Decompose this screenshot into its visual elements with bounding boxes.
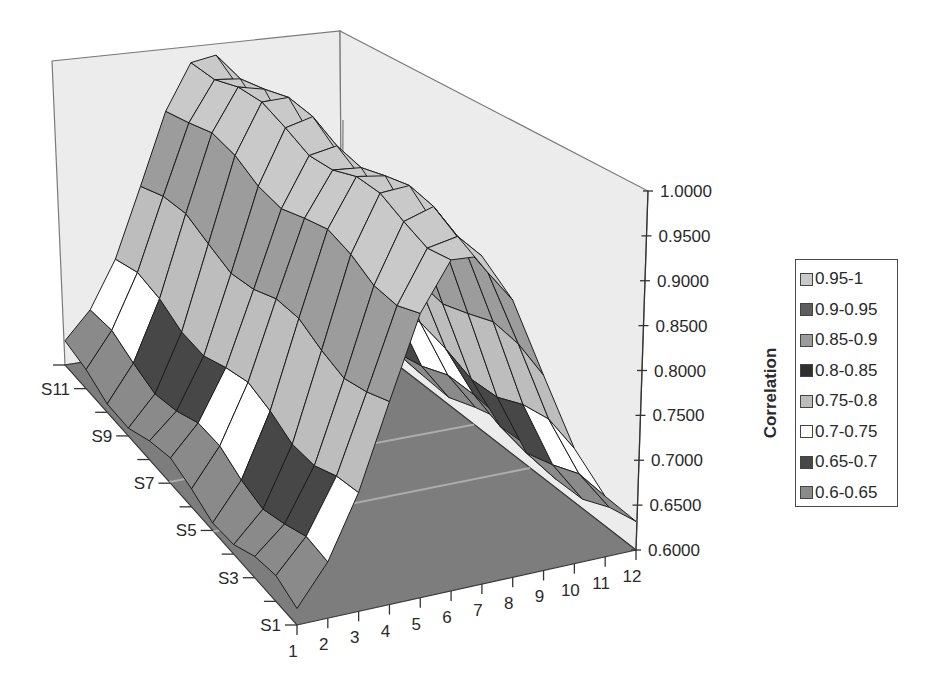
z-tick-label: 0.6000 <box>648 541 700 560</box>
z-axis-title: Correlation <box>761 348 780 439</box>
legend: 0.95-10.9-0.950.85-0.90.8-0.850.75-0.80.… <box>795 259 898 507</box>
z-tick-label: 1.0000 <box>660 182 712 201</box>
series-tick-label: S3 <box>218 569 239 588</box>
x-tick-label: 10 <box>561 581 580 600</box>
legend-swatch <box>800 273 813 286</box>
z-tick-label: 0.9000 <box>657 272 709 291</box>
legend-item: 0.6-0.65 <box>796 478 897 509</box>
x-tick-label: 1 <box>288 642 297 661</box>
series-tick-label: S1 <box>260 616 281 635</box>
legend-label: 0.95-1 <box>815 269 863 289</box>
legend-item: 0.95-1 <box>796 264 897 295</box>
x-tick-label: 11 <box>592 574 610 593</box>
x-tick-label: 5 <box>412 615 421 634</box>
legend-item: 0.8-0.85 <box>796 356 897 387</box>
legend-item: 0.7-0.75 <box>796 417 897 448</box>
legend-swatch <box>800 334 813 347</box>
legend-swatch <box>800 425 813 438</box>
legend-label: 0.7-0.75 <box>815 422 877 442</box>
legend-item: 0.65-0.7 <box>796 447 897 478</box>
legend-swatch <box>800 303 813 316</box>
x-tick-label: 9 <box>535 587 544 606</box>
legend-item: 0.85-0.9 <box>796 325 897 356</box>
legend-item: 0.9-0.95 <box>796 295 897 326</box>
legend-swatch <box>800 364 813 377</box>
x-tick-label: 3 <box>350 628 359 647</box>
x-tick-label: 7 <box>473 601 482 620</box>
x-tick-label: 2 <box>319 635 328 654</box>
z-tick-label: 0.7000 <box>651 451 703 470</box>
series-tick-label: S9 <box>91 427 112 446</box>
series-tick-label: S7 <box>134 474 155 493</box>
legend-label: 0.65-0.7 <box>815 452 877 472</box>
x-tick-label: 6 <box>442 608 451 627</box>
z-tick-label: 0.6500 <box>650 496 702 515</box>
z-tick-label: 0.8500 <box>656 317 708 336</box>
x-tick-label: 12 <box>623 567 642 586</box>
z-tick-label: 0.8000 <box>654 362 706 381</box>
legend-item: 0.75-0.8 <box>796 386 897 417</box>
series-tick-label: S5 <box>176 521 197 540</box>
legend-label: 0.6-0.65 <box>815 483 877 503</box>
legend-label: 0.8-0.85 <box>815 361 877 381</box>
x-tick-label: 8 <box>504 594 513 613</box>
x-tick-label: 4 <box>381 622 390 641</box>
legend-label: 0.9-0.95 <box>815 300 877 320</box>
z-tick-label: 0.9500 <box>659 227 711 246</box>
legend-swatch <box>800 395 813 408</box>
z-tick-label: 0.7500 <box>653 406 705 425</box>
surface-chart: 1.00000.95000.90000.85000.80000.75000.70… <box>0 0 925 686</box>
legend-label: 0.75-0.8 <box>815 391 877 411</box>
legend-swatch <box>800 456 813 469</box>
series-tick-label: S11 <box>41 380 70 399</box>
legend-swatch <box>800 486 813 499</box>
legend-label: 0.85-0.9 <box>815 330 877 350</box>
